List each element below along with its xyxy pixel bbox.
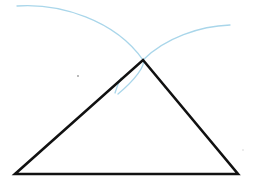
stray-dot-right — [242, 149, 243, 150]
construction-diagram — [0, 0, 258, 185]
diagram-svg — [0, 0, 258, 185]
stray-dot — [77, 75, 79, 77]
right-compass-arc — [143, 25, 230, 60]
left-compass-arc — [17, 6, 143, 94]
triangle — [15, 60, 238, 174]
